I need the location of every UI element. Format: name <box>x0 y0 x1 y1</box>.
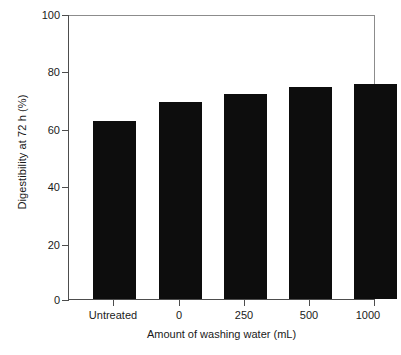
bar-0 <box>159 102 202 299</box>
y-tick-label-100: 100 <box>22 10 60 21</box>
bar-1000 <box>354 84 397 299</box>
y-tick-label-60: 60 <box>22 125 60 136</box>
x-axis-title: Amount of washing water (mL) <box>68 328 375 341</box>
x-tick-mark-untreated <box>113 300 114 306</box>
y-tick-label-20: 20 <box>22 240 60 251</box>
x-tick-mark-1000 <box>374 300 375 306</box>
x-tick-label-1000: 1000 <box>328 309 401 321</box>
y-tick-mark-0 <box>62 300 69 301</box>
plot-area <box>68 15 375 300</box>
x-tick-mark-500 <box>309 300 310 306</box>
y-tick-label-40: 40 <box>22 182 60 193</box>
x-tick-mark-0 <box>179 300 180 306</box>
bar-untreated <box>93 121 136 299</box>
x-tick-mark-250 <box>244 300 245 306</box>
y-tick-label-0: 0 <box>22 295 60 306</box>
y-axis-title: Digestibility at 72 h (%) <box>14 2 30 302</box>
bar-500 <box>289 87 332 299</box>
y-tick-label-80: 80 <box>22 67 60 78</box>
bar-250 <box>224 94 267 299</box>
